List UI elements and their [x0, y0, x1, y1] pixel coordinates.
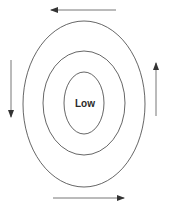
- center-label: Low: [75, 98, 95, 109]
- low-pressure-diagram: Low: [0, 0, 170, 212]
